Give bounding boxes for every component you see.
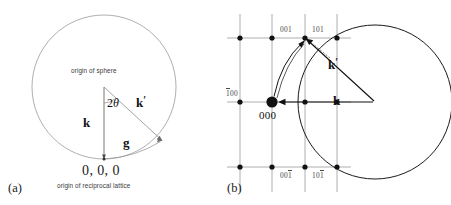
origin-of-reciprocal-lattice-note: origin of reciprocal lattice xyxy=(57,183,130,189)
panel-a-tag: (a) xyxy=(8,182,22,195)
panel-a: origin of sphere 2θ k k′ g 0, 0, 0 origi… xyxy=(0,0,226,205)
panel-b: 001 101 100 001 101 000 k k′ (b) xyxy=(225,0,451,205)
prime-mark: ′ xyxy=(143,92,146,107)
panel-b-tag: (b) xyxy=(227,182,242,195)
ewald-sphere-figure: origin of sphere 2θ k k′ g 0, 0, 0 origi… xyxy=(0,0,451,205)
lattice-label-001-top: 001 xyxy=(280,26,292,33)
lattice-label-101bar-bottom: 101 xyxy=(312,172,324,179)
k-vector-label: k xyxy=(83,116,90,129)
g-vector-guide-arc xyxy=(277,44,304,98)
origin-000-dot xyxy=(266,96,277,107)
k-prime-vector-label: k′ xyxy=(136,96,146,109)
reciprocal-lattice-origin-dot xyxy=(103,158,106,161)
k-prime-vector-line xyxy=(104,87,161,139)
lattice-label-1bar00-left: 100 xyxy=(226,90,238,97)
g-vector-label: g xyxy=(123,136,130,149)
k-vector-arrowhead xyxy=(278,99,286,105)
lattice-label-101-top: 101 xyxy=(312,26,324,33)
two-theta-label: 2θ xyxy=(107,97,119,109)
prime-mark: ′ xyxy=(335,54,338,69)
reciprocal-lattice-origin-label: 0, 0, 0 xyxy=(82,164,120,178)
theta-symbol: θ xyxy=(113,96,119,110)
k-prime-vector-label: k′ xyxy=(328,58,338,71)
g-vector-arc xyxy=(105,142,161,160)
origin-of-sphere-note: origin of sphere xyxy=(71,68,117,74)
k-vector-label: k xyxy=(333,94,340,107)
k-prime-vector-line xyxy=(309,42,374,102)
origin-000-label: 000 xyxy=(259,110,276,121)
lattice-label-001bar-bottom: 001 xyxy=(280,172,292,179)
